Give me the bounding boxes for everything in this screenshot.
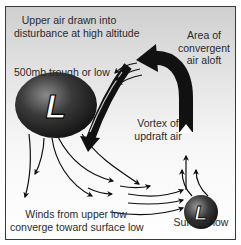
vortex-label-line-1: Vortex of [132, 117, 184, 130]
updraft-arrows [182, 156, 208, 196]
winds-label-line-1: Winds from upper low [10, 208, 142, 221]
convergent-label-line-3: air aloft [176, 54, 232, 67]
winds-label-line-2: converge toward surface low [10, 221, 142, 234]
wind-arrows [25, 134, 183, 215]
convergent-label-line-1: Area of [176, 29, 232, 42]
trough-label-text: 500mb trough or low [14, 66, 110, 78]
vortex-label-line-2: updraft air [132, 130, 184, 143]
surface-low-label: Surface low [170, 216, 232, 229]
upper-air-label-line-2: disturbance at high altitude [14, 27, 124, 40]
winds-label: Winds from upper low converge toward sur… [10, 208, 142, 233]
surface-low-label-text: Surface low [174, 216, 229, 228]
upper-air-label: Upper air drawn into disturbance at high… [14, 14, 124, 39]
upper-air-label-line-1: Upper air drawn into [14, 14, 124, 27]
convergent-air-label: Area of convergent air aloft [176, 29, 232, 67]
upper-low-symbol: L [15, 72, 97, 138]
convergent-label-line-2: convergent [176, 42, 232, 55]
upper-low-letter: L [46, 87, 67, 125]
trough-label: 500mb trough or low [14, 66, 114, 79]
vortex-label: Vortex of updraft air [132, 117, 184, 142]
